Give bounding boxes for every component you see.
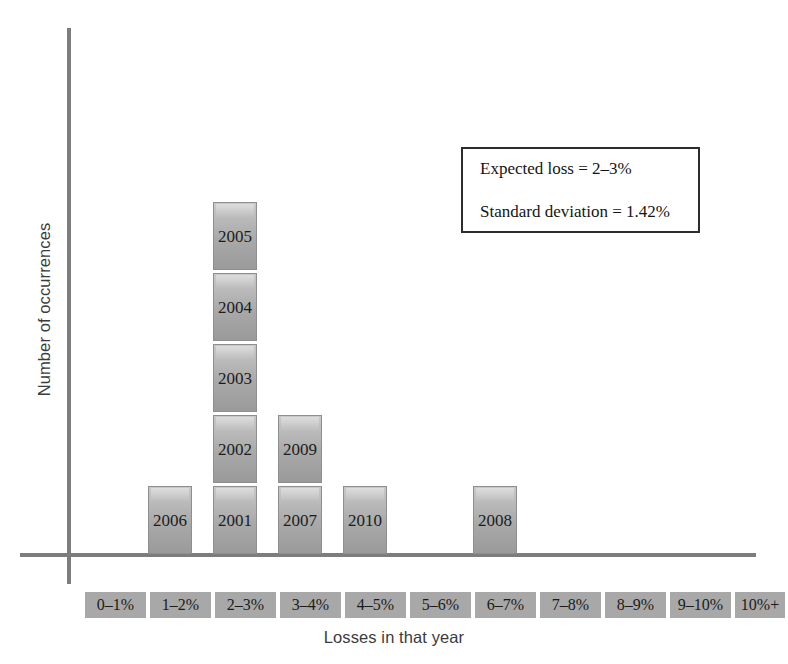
bar-block: 2008 [473,486,517,554]
expected-loss-text: Expected loss = 2–3% [480,160,698,177]
bar-block: 2002 [213,415,257,483]
bar-column: 2010 [343,483,387,554]
bar-block-label: 2010 [348,512,382,529]
bar-block-label: 2006 [153,512,187,529]
category-tick-label-text: 1–2% [162,597,199,613]
category-tick-label: 7–8% [540,592,601,618]
bar-block: 2007 [278,486,322,554]
category-tick-label: 8–9% [605,592,666,618]
x-axis-tick-labels: 0–1%1–2%2–3%3–4%4–5%5–6%6–7%7–8%8–9%9–10… [0,592,788,618]
category-tick-label: 5–6% [410,592,471,618]
bar-block: 2010 [343,486,387,554]
category-tick-label-text: 5–6% [422,597,459,613]
statistics-annotation-box: Expected loss = 2–3% Standard deviation … [461,147,700,233]
category-tick-label-text: 4–5% [357,597,394,613]
bar-block-label: 2001 [218,512,252,529]
category-tick-label: 6–7% [475,592,536,618]
plot-area: 2006200120022003200420052007200920102008 [0,0,788,554]
category-tick-label-text: 8–9% [617,597,654,613]
bar-column: 2008 [473,483,517,554]
bar-block-label: 2003 [218,370,252,387]
bar-block-label: 2009 [283,441,317,458]
category-tick-label-text: 3–4% [292,597,329,613]
bar-block-label: 2008 [478,512,512,529]
bar-block: 2004 [213,273,257,341]
category-tick-label: 9–10% [670,592,731,618]
category-tick-label-text: 9–10% [678,597,723,613]
category-tick-label: 2–3% [215,592,276,618]
bar-block: 2003 [213,344,257,412]
bar-block: 2001 [213,486,257,554]
category-tick-label: 10%+ [735,592,785,618]
bar-block: 2005 [213,202,257,270]
category-tick-label-text: 7–8% [552,597,589,613]
category-tick-label-text: 0–1% [97,597,134,613]
bar-column: 2006 [148,483,192,554]
bar-block-label: 2004 [218,299,252,316]
bar-column: 20012002200320042005 [213,199,257,554]
bar-block: 2006 [148,486,192,554]
bar-block-label: 2007 [283,512,317,529]
bar-column: 20072009 [278,412,322,554]
category-tick-label: 0–1% [85,592,146,618]
category-tick-label: 4–5% [345,592,406,618]
category-tick-label-text: 6–7% [487,597,524,613]
category-tick-label-text: 10%+ [741,597,779,613]
category-tick-label: 3–4% [280,592,341,618]
bar-block: 2009 [278,415,322,483]
x-axis-title: Losses in that year [0,628,788,647]
category-tick-label-text: 2–3% [227,597,264,613]
standard-deviation-text: Standard deviation = 1.42% [480,203,698,220]
histogram-chart: Number of occurrences 200620012002200320… [0,0,788,664]
category-tick-label: 1–2% [150,592,211,618]
bar-block-label: 2005 [218,228,252,245]
bar-block-label: 2002 [218,441,252,458]
